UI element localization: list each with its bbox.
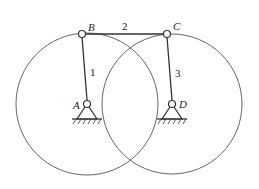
link-3	[167, 37, 172, 100]
link-1	[82, 37, 87, 100]
four-bar-linkage-diagram: B C A D 1 2 3	[0, 0, 259, 189]
label-D: D	[178, 98, 187, 110]
joint-A	[84, 101, 91, 108]
label-B: B	[88, 21, 95, 33]
joint-C	[164, 31, 171, 38]
joint-D	[169, 101, 176, 108]
label-A: A	[72, 99, 80, 111]
joint-B	[79, 31, 86, 38]
label-link-2: 2	[122, 20, 128, 32]
label-link-1: 1	[90, 66, 96, 78]
label-link-3: 3	[175, 67, 181, 79]
label-C: C	[173, 20, 181, 32]
